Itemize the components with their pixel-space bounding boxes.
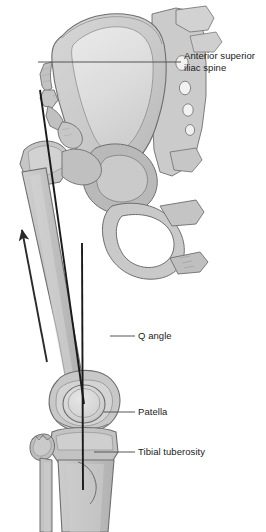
- q-angle-line-patellar: [82, 243, 83, 490]
- obturator-foramen: [102, 200, 208, 279]
- label-q-angle: Q angle: [138, 330, 172, 342]
- pelvis-group: [40, 6, 222, 279]
- anatomy-illustration: [0, 0, 266, 532]
- q-angle-figure: Anterior superioriliac spine Q angle Pat…: [0, 0, 266, 532]
- label-anterior-superior-iliac-spine: Anterior superioriliac spine: [184, 50, 255, 73]
- tibia-fibula-group: [30, 428, 118, 532]
- label-asis-line2: iliac spine: [184, 62, 226, 73]
- label-asis-line1: Anterior superior: [184, 50, 255, 61]
- label-patella: Patella: [138, 406, 167, 418]
- label-tibial-tuberosity: Tibial tuberosity: [138, 446, 205, 458]
